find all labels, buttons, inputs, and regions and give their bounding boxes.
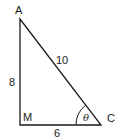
vertex-label-a: A bbox=[15, 4, 23, 16]
angle-label-theta: θ bbox=[83, 112, 89, 123]
vertex-label-m: M bbox=[23, 111, 32, 123]
side-label-am: 8 bbox=[9, 76, 15, 88]
side-label-mc: 6 bbox=[54, 127, 60, 139]
triangle-amc bbox=[20, 19, 101, 125]
triangle-diagram: A M C 10 8 6 θ bbox=[0, 0, 122, 140]
side-label-ac: 10 bbox=[56, 54, 68, 66]
vertex-label-c: C bbox=[107, 112, 115, 124]
